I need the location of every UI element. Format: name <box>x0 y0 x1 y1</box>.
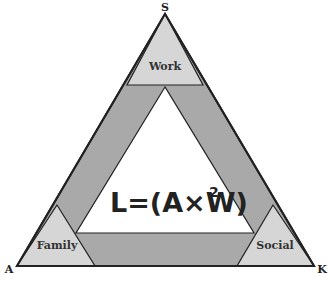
vertex-label-top: S <box>161 1 169 14</box>
corner-label-social: Social <box>256 239 293 252</box>
formula-exponent: 2 <box>209 184 219 200</box>
life-triangle-diagram: S A K Work Family Social L=(A×W) 2 <box>0 0 330 281</box>
vertex-label-bottom-left: A <box>4 263 14 276</box>
vertex-label-bottom-right: K <box>317 263 327 276</box>
corner-label-family: Family <box>37 239 78 252</box>
corner-work <box>127 14 203 85</box>
formula-text: L=(A×W) <box>110 187 248 218</box>
corner-label-work: Work <box>148 60 182 73</box>
